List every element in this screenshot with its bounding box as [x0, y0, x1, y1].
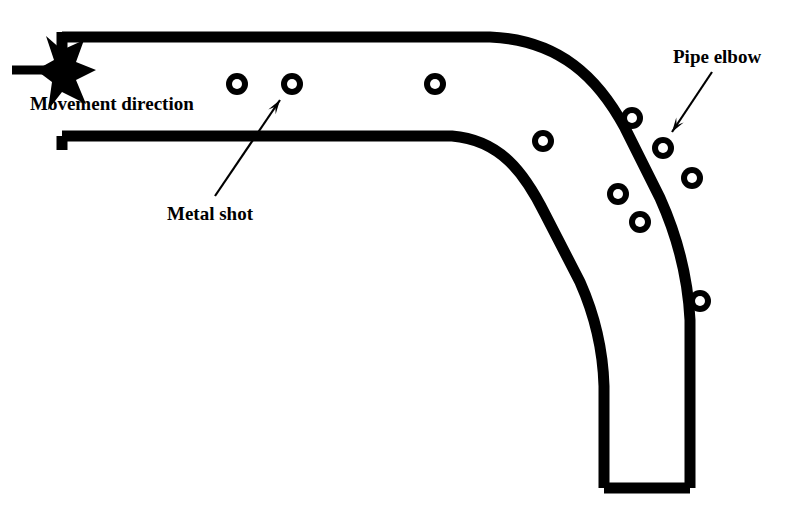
metal-shot-particle-core	[430, 79, 440, 89]
metal-shot-particle-core	[232, 79, 242, 89]
metal-shot-particle-core	[695, 296, 705, 306]
leader-arrowhead	[268, 100, 280, 114]
metal-shot-particle	[532, 130, 554, 152]
pipe-elbow-diagram: Movement direction Metal shot Pipe elbow	[0, 0, 807, 510]
pipe-elbow-label: Pipe elbow	[673, 46, 761, 67]
metal-shot-particle-core	[627, 113, 637, 123]
metal-shot-particle-core	[613, 189, 623, 199]
metal-shot-particle-core	[538, 136, 548, 146]
metal-shot-particle	[681, 167, 703, 189]
metal-shot-label: Metal shot	[167, 203, 254, 224]
leader-line	[672, 72, 712, 132]
metal-shot-particle	[621, 107, 643, 129]
metal-shot-particle-core	[687, 173, 697, 183]
metal-shot-particle	[424, 73, 446, 95]
leader-arrowhead	[672, 118, 684, 132]
metal-shot-particle	[607, 183, 629, 205]
pipe-elbow-leader	[672, 72, 712, 132]
metal-shot-particle-core	[287, 79, 297, 89]
metal-shot-particle-core	[635, 217, 645, 227]
metal-shot-leader	[215, 100, 280, 196]
movement-direction-label: Movement direction	[30, 93, 194, 114]
metal-shot-particle	[281, 73, 303, 95]
diagram-canvas: Movement direction Metal shot Pipe elbow	[0, 0, 807, 510]
pipe-inner-wall	[62, 136, 604, 488]
metal-shot-particle	[689, 290, 711, 312]
leader-line	[215, 100, 280, 196]
metal-shot-particle	[629, 211, 651, 233]
metal-shot-particle-group	[226, 73, 711, 312]
metal-shot-particle-core	[658, 143, 668, 153]
metal-shot-particle	[652, 137, 674, 159]
metal-shot-particle	[226, 73, 248, 95]
